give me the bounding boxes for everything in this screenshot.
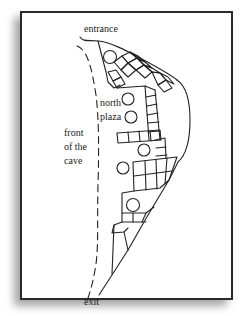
entrance-label: entrance [84,23,118,35]
room-circle [122,93,134,105]
front-of-cave-label-line3: cave [64,155,82,167]
north-plaza-label-line2: plaza [100,111,121,123]
front-of-cave-label-line1: front [64,127,83,139]
entrance-wall-line [80,37,177,80]
room-circle [127,199,140,212]
cave-site-plan [0,0,245,316]
front-of-cave-label-line2: of the [64,141,87,153]
north-plaza-label-line1: north [100,97,121,109]
exit-label: exit [84,296,99,308]
room-circle [117,162,129,174]
front-of-cave-dashed-line [77,46,99,298]
room-circle [125,111,137,123]
room-circle [138,144,150,156]
